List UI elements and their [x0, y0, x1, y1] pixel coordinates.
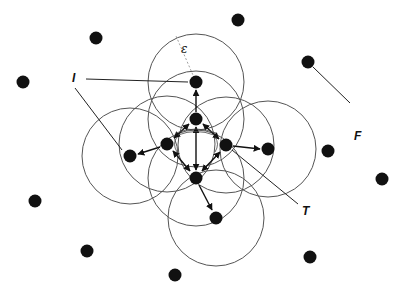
node-inner-right — [220, 139, 233, 152]
noise-nodes — [17, 14, 389, 282]
noise-node — [17, 76, 30, 89]
label-T: T — [302, 205, 309, 217]
epsilon-circles — [82, 34, 316, 266]
node-top — [190, 76, 203, 89]
node-inner-top — [190, 113, 203, 126]
node-inner-bottom — [190, 172, 203, 185]
noise-node — [376, 173, 389, 186]
noise-node — [169, 269, 182, 282]
noise-node — [232, 14, 245, 27]
node-outer-right — [262, 143, 275, 156]
noise-node — [29, 195, 42, 208]
label-F: F — [354, 130, 361, 142]
dbscan-diagram — [0, 0, 401, 290]
node-outer-left — [124, 150, 137, 163]
noise-node — [90, 32, 103, 45]
cluster-nodes — [124, 76, 275, 225]
node-inner-left — [161, 138, 174, 151]
noise-node — [322, 145, 335, 158]
leader-I-to-top — [86, 79, 188, 82]
leader-I-to-outer-left — [75, 88, 122, 150]
label-epsilon: ε — [181, 43, 187, 55]
leader-lines — [75, 67, 350, 204]
leader-F — [313, 67, 350, 103]
node-outer-bottom — [210, 212, 223, 225]
noise-node — [81, 245, 94, 258]
label-I: I — [72, 72, 75, 84]
noise-node — [302, 56, 315, 69]
arrow-left-bottom — [173, 151, 190, 171]
noise-node — [304, 251, 317, 264]
arrow-right-to-outer-right — [233, 146, 260, 149]
